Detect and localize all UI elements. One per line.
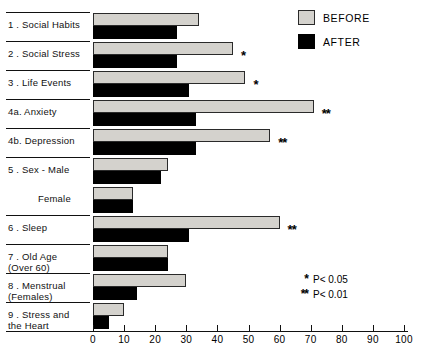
axis-tick (155, 325, 156, 331)
axis-tick-label: 90 (367, 334, 379, 345)
bar-after (93, 26, 177, 39)
axis-tick-label: 80 (336, 334, 348, 345)
bar-before (93, 216, 280, 229)
significance-note: *P< 0.05 (282, 272, 348, 287)
bar-after (93, 171, 161, 184)
bar-after (93, 200, 133, 213)
row-divider (6, 70, 90, 71)
bar-before (93, 187, 133, 200)
axis-tick-label: 10 (118, 334, 130, 345)
significance-marker: ** (288, 222, 296, 237)
axis-tick (186, 325, 187, 331)
category-label: 9 . Stress and the Heart (8, 309, 88, 331)
bar-after (93, 258, 168, 271)
note-text: P< 0.05 (313, 273, 348, 287)
bar-after (93, 229, 189, 242)
legend-item: AFTER (298, 34, 370, 49)
x-axis-line (6, 331, 408, 332)
axis-tick (342, 325, 343, 331)
note-star: ** (282, 287, 308, 301)
category-label: 2 . Social Stress (8, 48, 88, 59)
bar-after (93, 316, 109, 329)
legend-label: AFTER (323, 36, 360, 48)
bar-before (93, 13, 199, 26)
category-label: 7 . Old Age (Over 60) (8, 251, 88, 273)
category-label: 8 . Menstrual (Females) (8, 280, 88, 302)
axis-tick-label: 0 (90, 334, 96, 345)
bar-before (93, 303, 124, 316)
category-label: 4b. Depression (8, 135, 88, 146)
axis-tick-label: 20 (149, 334, 161, 345)
legend-label: BEFORE (323, 12, 370, 24)
axis-tick (404, 325, 405, 331)
axis-tick (280, 325, 281, 331)
bar-before (93, 158, 168, 171)
bar-before (93, 129, 270, 142)
legend-swatch-after (298, 34, 315, 49)
bar-before (93, 71, 245, 84)
axis-tick-label: 50 (243, 334, 255, 345)
bar-before (93, 274, 186, 287)
row-divider (6, 157, 90, 158)
axis-tick-label: 40 (212, 334, 224, 345)
axis-tick (249, 325, 250, 331)
bar-after (93, 55, 177, 68)
bar-before (93, 100, 314, 113)
bar-after (93, 287, 137, 300)
axis-tick-label: 30 (180, 334, 192, 345)
axis-tick (93, 325, 94, 331)
category-label: 4a. Anxiety (8, 106, 88, 117)
axis-tick (373, 325, 374, 331)
row-divider (6, 128, 90, 129)
row-divider (6, 302, 90, 303)
bar-after (93, 113, 196, 126)
legend-swatch-before (298, 10, 315, 25)
significance-marker: * (253, 77, 257, 92)
row-divider (6, 99, 90, 100)
note-text: P< 0.01 (313, 288, 348, 302)
axis-tick-label: 70 (305, 334, 317, 345)
axis-tick (124, 325, 125, 331)
axis-tick-label: 100 (395, 334, 413, 345)
significance-marker: ** (278, 135, 286, 150)
horizontal-bar-chart: 1 . Social Habits2 . Social Stress*3 . L… (0, 0, 422, 361)
significance-note: **P< 0.01 (282, 287, 348, 302)
bar-after (93, 84, 189, 97)
bar-after (93, 142, 196, 155)
axis-tick (217, 325, 218, 331)
axis-tick (311, 325, 312, 331)
bar-before (93, 245, 168, 258)
chart-legend: BEFOREAFTER (298, 10, 370, 58)
significance-marker: ** (322, 106, 330, 121)
category-label: 1 . Social Habits (8, 19, 88, 30)
legend-item: BEFORE (298, 10, 370, 25)
row-divider (6, 41, 90, 42)
row-divider (6, 12, 90, 13)
bar-before (93, 42, 233, 55)
category-label: 5 . Sex - Male (8, 164, 88, 175)
significance-notes: *P< 0.05**P< 0.01 (282, 272, 348, 302)
axis-tick-label: 60 (274, 334, 286, 345)
row-divider (6, 244, 90, 245)
significance-marker: * (241, 48, 245, 63)
row-divider (6, 273, 90, 274)
row-divider (6, 215, 90, 216)
category-label: Female (38, 193, 90, 204)
category-label: 3 . Life Events (8, 77, 88, 88)
note-star: * (282, 272, 308, 286)
category-label: 6 . Sleep (8, 222, 88, 233)
